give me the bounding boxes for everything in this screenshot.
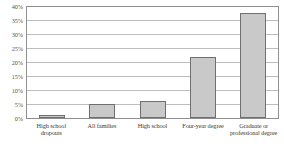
bar-slot-graduate-or-professional-degree [228,7,278,118]
bar-slot-four-year-degree [178,7,228,118]
bar-slot-all-families [77,7,127,118]
bars-layer [27,7,278,118]
plot-area [26,6,279,119]
y-axis: 40% 35% 30% 25% 20% 15% 10% 5% 0% [0,0,26,125]
x-axis: High school dropouts All families High s… [26,120,279,155]
bar-four-year-degree[interactable] [190,57,216,118]
x-tick-label-all-families: All families [77,120,128,155]
y-tick-label-10: 10% [12,88,23,94]
bar-chart-figure: 40% 35% 30% 25% 20% 15% 10% 5% 0% [0,0,284,155]
y-tick-label-30: 30% [12,32,23,38]
bar-high-school-dropouts[interactable] [39,115,65,118]
x-tick-label-graduate-or-professional-degree: Graduate or professional degree [228,120,279,155]
y-tick-label-25: 25% [12,46,23,52]
bar-graduate-or-professional-degree[interactable] [240,13,266,118]
bar-slot-high-school [127,7,177,118]
y-tick-label-5: 5% [15,102,23,108]
bar-high-school[interactable] [140,101,166,118]
x-tick-label-high-school-dropouts: High school dropouts [26,120,77,155]
y-tick-label-35: 35% [12,18,23,24]
y-tick-label-20: 20% [12,60,23,66]
y-tick-label-40: 40% [12,4,23,10]
x-tick-label-four-year-degree: Four-year degree [178,120,229,155]
y-tick-label-15: 15% [12,74,23,80]
y-tick-label-0: 0% [15,116,23,122]
bar-slot-high-school-dropouts [27,7,77,118]
bar-all-families[interactable] [89,104,115,118]
x-tick-label-high-school: High school [127,120,178,155]
